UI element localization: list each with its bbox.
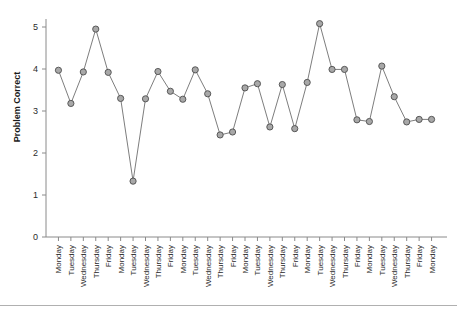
x-tick-label: Monday bbox=[303, 245, 312, 273]
x-tick-label: Thursday bbox=[278, 245, 287, 278]
y-tick-label: 3 bbox=[33, 106, 38, 116]
data-point-marker bbox=[155, 68, 161, 74]
data-point-marker bbox=[391, 94, 397, 100]
x-tick-label: Wednesday bbox=[266, 245, 275, 287]
data-point-marker bbox=[118, 95, 124, 101]
x-tick-label: Wednesday bbox=[204, 245, 213, 287]
x-tick-label: Monday bbox=[365, 245, 374, 273]
data-point-marker bbox=[229, 129, 235, 135]
x-tick-label: Wednesday bbox=[142, 245, 151, 287]
x-tick-label: Friday bbox=[291, 245, 300, 267]
data-point-marker bbox=[55, 67, 61, 73]
x-tick-label: Friday bbox=[353, 245, 362, 267]
x-tick-label: Thursday bbox=[92, 245, 101, 278]
y-tick-label: 4 bbox=[33, 64, 38, 74]
data-point-marker bbox=[366, 118, 372, 124]
data-point-marker bbox=[242, 85, 248, 91]
y-tick-label: 1 bbox=[33, 190, 38, 200]
x-tick-label: Tuesday bbox=[191, 245, 200, 275]
data-point-marker bbox=[254, 81, 260, 87]
x-tick-label: Thursday bbox=[341, 245, 350, 278]
data-point-marker bbox=[167, 88, 173, 94]
data-point-marker bbox=[267, 124, 273, 130]
data-point-marker bbox=[354, 117, 360, 123]
footer-divider bbox=[0, 305, 457, 306]
data-point-marker bbox=[205, 91, 211, 97]
x-tick-label: Friday bbox=[229, 245, 238, 267]
data-point-marker bbox=[192, 67, 198, 73]
data-point-marker bbox=[416, 116, 422, 122]
x-tick-label: Monday bbox=[428, 245, 437, 273]
x-tick-label: Tuesday bbox=[129, 245, 138, 275]
data-point-marker bbox=[379, 63, 385, 69]
data-point-marker bbox=[180, 96, 186, 102]
data-point-marker bbox=[279, 81, 285, 87]
data-point-marker bbox=[428, 116, 434, 122]
line-chart: 012345MondayTuesdayWednesdayThursdayFrid… bbox=[0, 0, 457, 317]
y-tick-label: 0 bbox=[33, 232, 38, 242]
data-point-marker bbox=[404, 119, 410, 125]
data-point-marker bbox=[292, 126, 298, 132]
data-point-marker bbox=[329, 66, 335, 72]
x-tick-label: Thursday bbox=[216, 245, 225, 278]
data-point-marker bbox=[142, 96, 148, 102]
data-point-marker bbox=[80, 69, 86, 75]
x-tick-label: Tuesday bbox=[378, 245, 387, 275]
data-point-marker bbox=[105, 69, 111, 75]
y-tick-label: 2 bbox=[33, 148, 38, 158]
data-point-marker bbox=[217, 132, 223, 138]
x-tick-label: Monday bbox=[179, 245, 188, 273]
x-tick-label: Wednesday bbox=[390, 245, 399, 287]
x-tick-label: Monday bbox=[117, 245, 126, 273]
data-point-marker bbox=[304, 79, 310, 85]
y-axis-title: Problem Correct bbox=[12, 72, 22, 143]
x-tick-label: Thursday bbox=[154, 245, 163, 278]
x-tick-label: Monday bbox=[54, 245, 63, 273]
x-tick-label: Friday bbox=[415, 245, 424, 267]
x-tick-label: Tuesday bbox=[67, 245, 76, 275]
data-point-marker bbox=[130, 178, 136, 184]
chart-figure: 012345MondayTuesdayWednesdayThursdayFrid… bbox=[0, 0, 457, 317]
data-series-line bbox=[58, 24, 431, 182]
x-tick-label: Thursday bbox=[403, 245, 412, 278]
x-tick-label: Wednesday bbox=[79, 245, 88, 287]
x-tick-label: Tuesday bbox=[253, 245, 262, 275]
x-tick-label: Friday bbox=[104, 245, 113, 267]
x-tick-label: Tuesday bbox=[316, 245, 325, 275]
data-point-marker bbox=[93, 26, 99, 32]
data-point-marker bbox=[341, 66, 347, 72]
x-tick-label: Wednesday bbox=[328, 245, 337, 287]
data-point-marker bbox=[317, 21, 323, 27]
x-tick-label: Friday bbox=[166, 245, 175, 267]
x-tick-label: Monday bbox=[241, 245, 250, 273]
data-point-marker bbox=[68, 100, 74, 106]
y-tick-label: 5 bbox=[33, 22, 38, 32]
